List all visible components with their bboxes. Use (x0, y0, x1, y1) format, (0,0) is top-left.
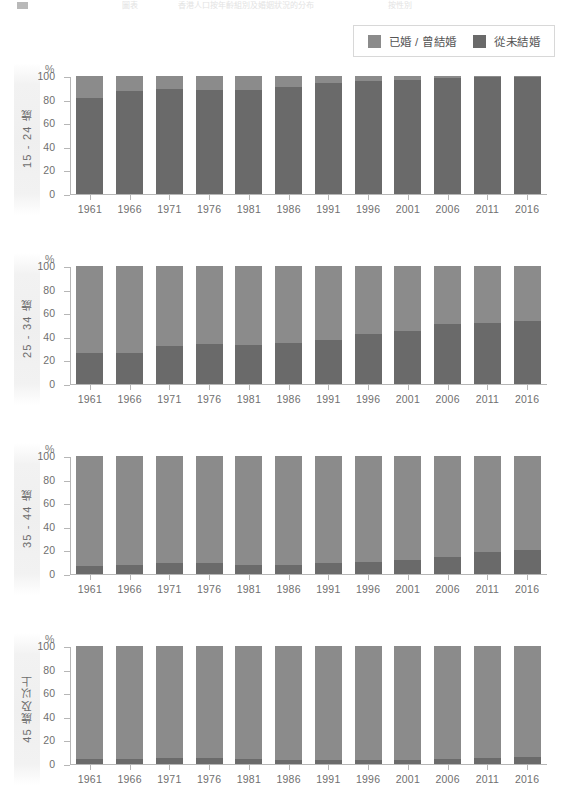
bar-segment-never-married[interactable] (434, 759, 461, 764)
bar-1961[interactable] (76, 456, 103, 574)
bar-segment-married[interactable] (434, 456, 461, 557)
bar-segment-never-married[interactable] (514, 77, 541, 194)
bar-segment-married[interactable] (76, 76, 103, 98)
bar-1976[interactable] (196, 456, 223, 574)
bar-segment-married[interactable] (275, 76, 302, 87)
bar-1976[interactable] (196, 646, 223, 764)
bar-segment-never-married[interactable] (76, 98, 103, 194)
bar-segment-never-married[interactable] (315, 83, 342, 194)
bar-2006[interactable] (434, 266, 461, 384)
bar-segment-never-married[interactable] (235, 90, 262, 194)
bar-2011[interactable] (474, 456, 501, 574)
bar-segment-married[interactable] (116, 266, 143, 353)
bar-segment-never-married[interactable] (156, 89, 183, 194)
bar-1991[interactable] (315, 456, 342, 574)
bar-1986[interactable] (275, 76, 302, 194)
bar-segment-never-married[interactable] (156, 346, 183, 384)
bar-segment-never-married[interactable] (116, 565, 143, 574)
bar-segment-never-married[interactable] (514, 550, 541, 574)
bar-2011[interactable] (474, 76, 501, 194)
bar-segment-never-married[interactable] (76, 759, 103, 764)
bar-segment-never-married[interactable] (394, 80, 421, 194)
bar-1986[interactable] (275, 456, 302, 574)
bar-1971[interactable] (156, 266, 183, 384)
bar-2016[interactable] (514, 76, 541, 194)
bar-segment-married[interactable] (76, 266, 103, 353)
bar-2001[interactable] (394, 646, 421, 764)
bar-segment-married[interactable] (275, 646, 302, 760)
bar-1971[interactable] (156, 456, 183, 574)
bar-2006[interactable] (434, 646, 461, 764)
bar-segment-married[interactable] (474, 456, 501, 552)
bar-segment-married[interactable] (196, 646, 223, 758)
bar-segment-never-married[interactable] (315, 340, 342, 384)
bar-segment-never-married[interactable] (275, 343, 302, 384)
bar-segment-never-married[interactable] (434, 78, 461, 194)
bar-1996[interactable] (355, 456, 382, 574)
bar-segment-never-married[interactable] (235, 565, 262, 574)
bar-1971[interactable] (156, 76, 183, 194)
legend-item-never-married[interactable]: 從未結婚 (473, 33, 540, 49)
bar-segment-never-married[interactable] (196, 758, 223, 764)
bar-segment-never-married[interactable] (275, 87, 302, 194)
bar-segment-never-married[interactable] (76, 353, 103, 384)
bar-segment-married[interactable] (394, 266, 421, 331)
bar-segment-never-married[interactable] (355, 562, 382, 574)
bar-segment-never-married[interactable] (275, 565, 302, 574)
bar-1986[interactable] (275, 646, 302, 764)
bar-segment-married[interactable] (355, 646, 382, 760)
bar-1961[interactable] (76, 646, 103, 764)
bar-segment-never-married[interactable] (315, 563, 342, 574)
bar-segment-married[interactable] (196, 456, 223, 563)
bar-1991[interactable] (315, 76, 342, 194)
bar-segment-married[interactable] (235, 456, 262, 565)
bar-2001[interactable] (394, 456, 421, 574)
bar-segment-never-married[interactable] (275, 760, 302, 764)
bar-segment-never-married[interactable] (76, 566, 103, 574)
bar-1996[interactable] (355, 646, 382, 764)
bar-segment-married[interactable] (514, 456, 541, 550)
bar-segment-married[interactable] (116, 646, 143, 759)
bar-1981[interactable] (235, 266, 262, 384)
bar-segment-married[interactable] (315, 266, 342, 340)
bar-1961[interactable] (76, 266, 103, 384)
bar-segment-never-married[interactable] (394, 331, 421, 384)
bar-segment-married[interactable] (394, 456, 421, 560)
bar-segment-never-married[interactable] (235, 759, 262, 764)
bar-segment-married[interactable] (315, 456, 342, 563)
bar-2011[interactable] (474, 266, 501, 384)
bar-segment-never-married[interactable] (116, 91, 143, 194)
bar-1996[interactable] (355, 76, 382, 194)
bar-segment-married[interactable] (394, 646, 421, 760)
bar-segment-never-married[interactable] (474, 77, 501, 194)
bar-segment-never-married[interactable] (156, 758, 183, 764)
bar-segment-never-married[interactable] (474, 758, 501, 764)
bar-segment-married[interactable] (76, 456, 103, 566)
bar-1971[interactable] (156, 646, 183, 764)
bar-segment-married[interactable] (76, 646, 103, 759)
bar-segment-married[interactable] (275, 266, 302, 343)
bar-2001[interactable] (394, 266, 421, 384)
bar-segment-never-married[interactable] (235, 345, 262, 384)
bar-1966[interactable] (116, 76, 143, 194)
bar-segment-never-married[interactable] (394, 560, 421, 574)
bar-1966[interactable] (116, 646, 143, 764)
bar-segment-married[interactable] (474, 266, 501, 323)
bar-segment-never-married[interactable] (434, 557, 461, 574)
bar-segment-married[interactable] (196, 76, 223, 90)
bar-segment-married[interactable] (434, 646, 461, 759)
bar-2016[interactable] (514, 456, 541, 574)
bar-segment-married[interactable] (116, 76, 143, 91)
bar-1996[interactable] (355, 266, 382, 384)
bar-segment-married[interactable] (235, 76, 262, 90)
bar-segment-never-married[interactable] (156, 563, 183, 574)
bar-segment-never-married[interactable] (514, 321, 541, 384)
bar-segment-married[interactable] (315, 646, 342, 760)
bar-1981[interactable] (235, 76, 262, 194)
bar-segment-married[interactable] (514, 646, 541, 757)
bar-segment-married[interactable] (275, 456, 302, 565)
bar-segment-married[interactable] (355, 266, 382, 334)
legend-item-married[interactable]: 已婚 / 曾結婚 (368, 33, 457, 49)
bar-1966[interactable] (116, 456, 143, 574)
bar-segment-married[interactable] (474, 646, 501, 758)
